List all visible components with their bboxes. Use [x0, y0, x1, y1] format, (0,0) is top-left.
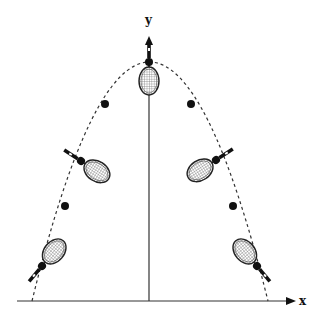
trajectory-curve [32, 62, 268, 301]
trajectory-diagram: x y [0, 0, 324, 323]
com-dot [61, 202, 69, 210]
com-dot [187, 100, 195, 108]
racket-top [139, 36, 159, 95]
com-dot [229, 202, 237, 210]
com-dot [101, 100, 109, 108]
racket-mid-left [59, 142, 114, 188]
y-axis-label: y [144, 13, 153, 27]
racket-mid-right [183, 141, 238, 187]
x-axis-label: x [299, 294, 307, 308]
x-axis: x [17, 294, 307, 308]
racket-bottom-left [21, 234, 70, 287]
